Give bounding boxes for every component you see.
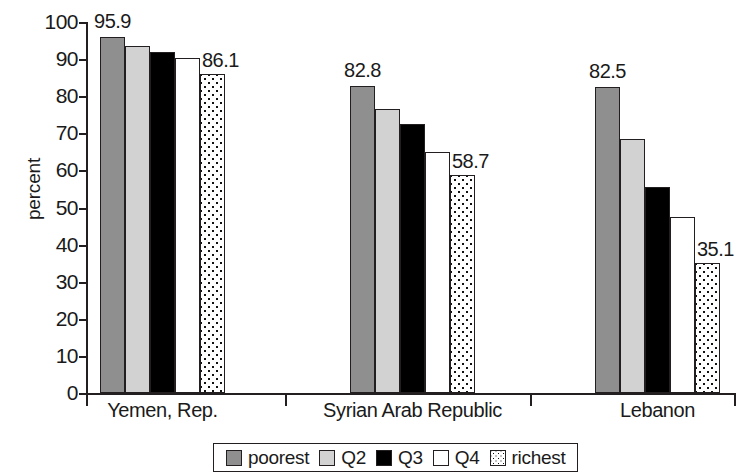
bar-value-label: 82.8 bbox=[333, 60, 393, 80]
bar-value-label: 35.1 bbox=[697, 239, 734, 259]
bar bbox=[100, 37, 125, 393]
x-axis-category-label: Yemen, Rep. bbox=[23, 400, 303, 420]
bar bbox=[595, 87, 620, 393]
bar bbox=[200, 74, 225, 393]
legend-item-label: richest bbox=[512, 448, 566, 467]
legend-swatch-icon bbox=[490, 450, 506, 466]
bar-value-label: 82.5 bbox=[578, 61, 638, 81]
legend-item[interactable]: Q3 bbox=[376, 448, 423, 467]
legend-item-label: Q2 bbox=[341, 448, 366, 467]
legend-item[interactable]: poorest bbox=[226, 448, 309, 467]
x-axis-group-separator bbox=[86, 393, 88, 406]
bar bbox=[400, 124, 425, 393]
bar bbox=[620, 139, 645, 393]
bar bbox=[670, 217, 695, 393]
x-axis-group-separator bbox=[734, 393, 736, 406]
bar-value-label: 95.9 bbox=[83, 11, 143, 31]
bar bbox=[375, 109, 400, 393]
bar bbox=[350, 86, 375, 393]
x-axis-group-separator bbox=[285, 393, 287, 406]
bar bbox=[645, 187, 670, 393]
bar bbox=[695, 263, 720, 393]
x-axis-category-label: Syrian Arab Republic bbox=[273, 400, 553, 420]
bar bbox=[450, 175, 475, 393]
bar-value-label: 58.7 bbox=[452, 151, 489, 171]
legend-swatch-icon bbox=[319, 450, 335, 466]
legend-item[interactable]: richest bbox=[490, 448, 566, 467]
legend-swatch-icon bbox=[226, 450, 242, 466]
legend: poorestQ2Q3Q4richest bbox=[213, 443, 578, 472]
legend-item[interactable]: Q4 bbox=[433, 448, 480, 467]
legend-swatch-icon bbox=[433, 450, 449, 466]
legend-item-label: Q4 bbox=[455, 448, 480, 467]
bar bbox=[175, 58, 200, 393]
bar bbox=[150, 52, 175, 393]
bar-chart: percent 1009080706050403020100 95.986.18… bbox=[0, 0, 741, 474]
legend-item-label: Q3 bbox=[398, 448, 423, 467]
x-axis-group-separator bbox=[530, 393, 532, 406]
x-axis-category-label: Lebanon bbox=[518, 400, 741, 420]
legend-swatch-icon bbox=[376, 450, 392, 466]
bar bbox=[425, 152, 450, 393]
bar bbox=[125, 46, 150, 393]
bar-value-label: 86.1 bbox=[202, 50, 239, 70]
legend-item-label: poorest bbox=[248, 448, 309, 467]
legend-item[interactable]: Q2 bbox=[319, 448, 366, 467]
